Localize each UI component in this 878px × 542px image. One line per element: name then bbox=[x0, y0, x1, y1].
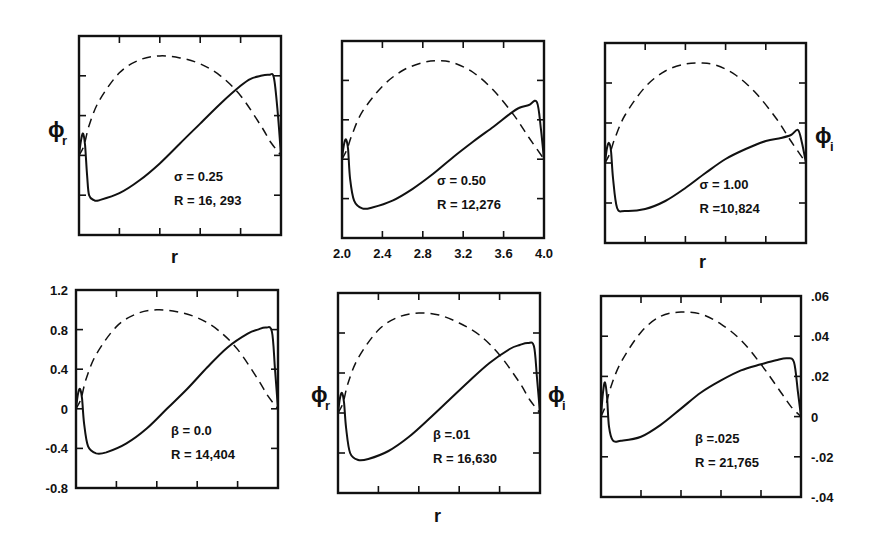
x-axis-label-bottom-middle: r bbox=[434, 506, 441, 526]
phi-r-label-bottom-middle: ϕ r bbox=[311, 382, 330, 413]
phi-i-curve bbox=[605, 63, 806, 163]
reynolds-annotation: R = 12,276 bbox=[437, 197, 501, 212]
parameter-annotation: σ = 1.00 bbox=[699, 177, 748, 192]
figure-canvas: σ = 0.25R = 16, 293σ = 0.50R = 12,2762.0… bbox=[0, 0, 878, 542]
x-tick-label: 3.2 bbox=[454, 246, 472, 261]
panels-group: σ = 0.25R = 16, 293σ = 0.50R = 12,2762.0… bbox=[46, 36, 835, 505]
panel-bottom-left: β = 0.0R = 14,4041.20.80.40-0.4-0.8 bbox=[46, 283, 278, 496]
y-tick-label-right: -.04 bbox=[811, 490, 834, 505]
y-tick-label-right: 0 bbox=[811, 410, 818, 425]
y-tick-label: 1.2 bbox=[50, 283, 68, 298]
panel-top-middle: σ = 0.50R = 12,2762.02.42.83.23.64.0 bbox=[333, 41, 553, 261]
phi-subscript: r bbox=[325, 398, 330, 413]
y-tick-label: 0.4 bbox=[50, 362, 69, 377]
phi-subscript: i bbox=[562, 398, 566, 413]
phi-r-curve bbox=[342, 101, 544, 209]
phi-i-curve bbox=[76, 310, 278, 409]
parameter-annotation: β =.025 bbox=[695, 431, 739, 446]
y-tick-label: 0 bbox=[61, 402, 68, 417]
phi-i-curve bbox=[79, 56, 281, 156]
y-tick-label-right: .04 bbox=[811, 329, 830, 344]
reynolds-annotation: R = 14,404 bbox=[171, 447, 236, 462]
x-tick-label: 2.0 bbox=[333, 246, 351, 261]
x-tick-label: 4.0 bbox=[535, 246, 553, 261]
parameter-annotation: σ = 0.50 bbox=[437, 173, 486, 188]
y-tick-label: -0.8 bbox=[46, 481, 68, 496]
phi-subscript: i bbox=[830, 139, 834, 154]
phi-i-label-bottom-middle: ϕ i bbox=[548, 382, 566, 413]
y-tick-label-right: .06 bbox=[811, 289, 829, 304]
x-axis-label-top-left: r bbox=[171, 247, 178, 267]
panel-bottom-right: β =.025R = 21,765.06.04.020-.02-.04 bbox=[601, 289, 834, 505]
reynolds-annotation: R =10,824 bbox=[699, 201, 760, 216]
phi-i-curve bbox=[338, 313, 540, 413]
phi-i-label-top-right: ϕ i bbox=[815, 123, 834, 154]
phi-r-curve bbox=[338, 342, 540, 460]
y-tick-label: -0.4 bbox=[46, 441, 69, 456]
reynolds-annotation: R = 21,765 bbox=[695, 455, 759, 470]
y-tick-label: 0.8 bbox=[50, 323, 68, 338]
x-axis-label-top-right: r bbox=[699, 252, 706, 272]
phi-r-label-top-left: ϕ r bbox=[48, 117, 67, 148]
reynolds-annotation: R = 16, 293 bbox=[174, 193, 242, 208]
x-tick-label: 2.4 bbox=[373, 246, 392, 261]
x-tick-label: 2.8 bbox=[414, 246, 432, 261]
panel-top-right: σ = 1.00R =10,824 bbox=[605, 43, 806, 243]
panel-bottom-middle: β =.01R = 16,630 bbox=[338, 293, 540, 493]
parameter-annotation: β =.01 bbox=[433, 427, 470, 442]
phi-r-curve bbox=[601, 358, 801, 442]
parameter-annotation: σ = 0.25 bbox=[174, 169, 223, 184]
phi-i-curve bbox=[601, 312, 801, 417]
y-tick-label-right: -.02 bbox=[811, 450, 833, 465]
reynolds-annotation: R = 16,630 bbox=[433, 451, 497, 466]
x-tick-label: 3.6 bbox=[495, 246, 513, 261]
phi-subscript: r bbox=[62, 133, 67, 148]
phi-r-curve bbox=[605, 130, 806, 212]
y-tick-label-right: .02 bbox=[811, 369, 829, 384]
parameter-annotation: β = 0.0 bbox=[171, 423, 212, 438]
panel-top-left: σ = 0.25R = 16, 293 bbox=[79, 36, 281, 235]
